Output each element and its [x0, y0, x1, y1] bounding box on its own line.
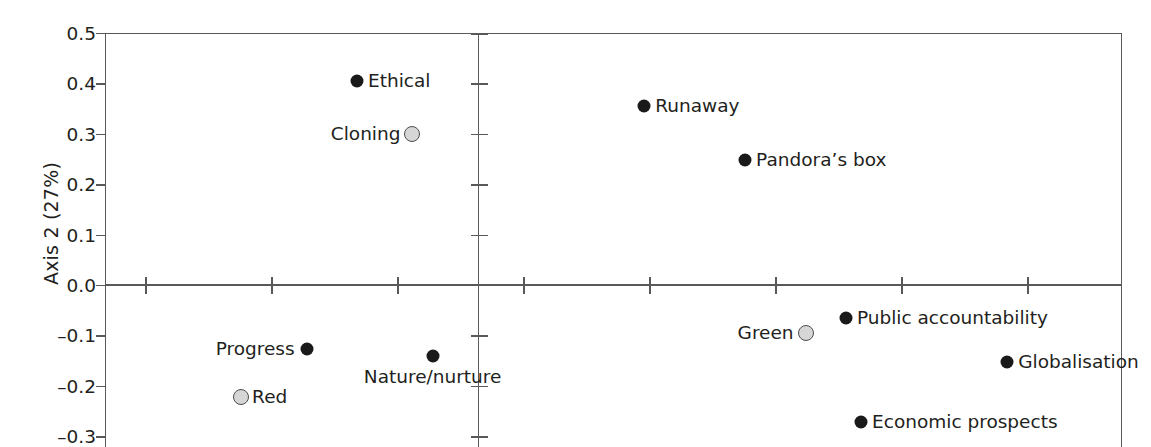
- plot-border-right: [1121, 33, 1122, 447]
- y-axis-tick: [96, 235, 106, 236]
- axis-horizontal-zero: [105, 284, 1122, 285]
- data-point-marker: [855, 416, 868, 429]
- data-point-marker: [233, 389, 249, 405]
- x-axis-tick: [397, 277, 399, 294]
- center-axis-tick: [471, 436, 488, 438]
- data-point-marker: [638, 99, 651, 112]
- data-point-label: Ethical: [368, 72, 430, 91]
- y-axis-tick: [96, 436, 106, 437]
- data-point-label: Cloning: [331, 125, 401, 144]
- x-axis-tick: [271, 277, 273, 294]
- center-axis-tick: [471, 134, 488, 136]
- x-axis-tick: [523, 277, 525, 294]
- data-point-marker: [839, 311, 852, 324]
- y-axis-tick: [96, 83, 106, 84]
- center-axis-tick: [471, 335, 488, 337]
- y-axis-tick: [96, 335, 106, 336]
- data-point-label: Pandora’s box: [756, 151, 886, 170]
- center-axis-tick: [471, 83, 488, 85]
- center-axis-tick: [471, 235, 488, 237]
- data-point-label: Progress: [216, 340, 295, 359]
- data-point-marker: [300, 343, 313, 356]
- x-axis-tick: [901, 277, 903, 294]
- y-tick-label: 0.0: [34, 275, 96, 296]
- data-point-marker: [351, 74, 364, 87]
- y-axis-tick: [96, 285, 106, 286]
- data-point-label: Public accountability: [857, 309, 1048, 328]
- y-tick-label: 0.1: [34, 224, 96, 245]
- data-point-marker: [739, 154, 752, 167]
- x-axis-tick: [775, 277, 777, 294]
- data-point-marker: [798, 325, 814, 341]
- y-axis-tick: [96, 386, 106, 387]
- y-tick-label: 0.3: [34, 123, 96, 144]
- y-axis-tick: [96, 184, 106, 185]
- y-tick-label: 0.2: [34, 174, 96, 195]
- data-point-label: Economic prospects: [872, 413, 1058, 432]
- data-point-label: Green: [738, 324, 794, 343]
- plot-border-top: [105, 33, 1122, 34]
- y-axis-tick-labels: 0.50.40.30.20.10.0–0.1–0.2–0.3: [28, 0, 96, 447]
- y-tick-label: 0.5: [34, 23, 96, 44]
- x-axis-tick: [1027, 277, 1029, 294]
- y-axis-tick: [96, 134, 106, 135]
- data-point-label: Red: [252, 388, 287, 407]
- data-point-marker: [426, 350, 439, 363]
- data-point-marker: [404, 126, 420, 142]
- x-axis-tick: [649, 277, 651, 294]
- scatter-plot-figure: Axis 2 (27%) 0.50.40.30.20.10.0–0.1–0.2–…: [0, 0, 1151, 447]
- data-point-label: Globalisation: [1018, 352, 1139, 371]
- center-axis-tick: [471, 184, 488, 186]
- data-point-label: Runaway: [655, 96, 739, 115]
- y-tick-label: 0.4: [34, 73, 96, 94]
- center-axis-tick: [471, 33, 488, 35]
- y-tick-label: –0.3: [34, 426, 96, 447]
- y-tick-label: –0.1: [34, 325, 96, 346]
- y-tick-label: –0.2: [34, 375, 96, 396]
- y-axis-tick: [96, 33, 106, 34]
- data-point-marker: [1001, 355, 1014, 368]
- data-point-label: Nature/nurture: [364, 368, 502, 387]
- x-axis-tick: [145, 277, 147, 294]
